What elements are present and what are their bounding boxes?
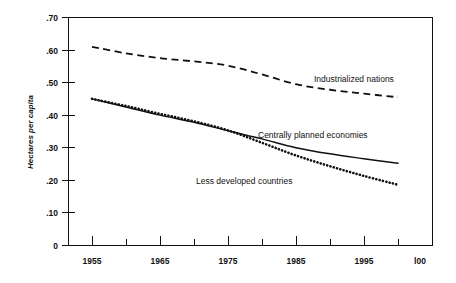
y-axis-labels: .70 .60 .50 .40 .30 .20 .10 0 (46, 13, 58, 251)
y-tick-label-060: .60 (46, 46, 58, 56)
x-tick-label-1955: 1955 (83, 256, 102, 266)
x-tick-label-1975: 1975 (219, 256, 238, 266)
x-tick-label-2000: l00 (414, 256, 426, 266)
series-paths (92, 47, 398, 185)
y-axis-title: Hectares per capita (26, 95, 35, 169)
y-tick-label-050: .50 (46, 78, 58, 88)
plot-frame (69, 18, 433, 246)
x-axis-ticks (92, 236, 398, 246)
line-chart: .70 .60 .50 .40 .30 .20 .10 0 Hectares p… (0, 0, 456, 283)
x-tick-label-1985: 1985 (287, 256, 306, 266)
y-tick-label-040: .40 (46, 111, 58, 121)
series-line-less-developed-countries (92, 99, 398, 185)
x-axis-labels: 1955 1965 1975 1985 1995 l00 (83, 256, 427, 266)
series-label-centrally-planned-economies: Centrally planned economies (258, 130, 368, 140)
series-label-industrialized-nations: Industrialized nations (314, 74, 394, 84)
y-tick-label-020: .20 (46, 176, 58, 186)
x-tick-label-1995: 1995 (355, 256, 374, 266)
x-tick-label-1965: 1965 (151, 256, 170, 266)
y-tick-label-010: .10 (46, 208, 58, 218)
series-line-industrialized-nations (92, 47, 398, 97)
y-tick-label-030: .30 (46, 143, 58, 153)
y-tick-label-000: 0 (53, 241, 58, 251)
series-label-less-developed-countries: Less developed countries (196, 176, 292, 186)
y-tick-label-070: .70 (46, 13, 58, 23)
chart-container: .70 .60 .50 .40 .30 .20 .10 0 Hectares p… (0, 0, 456, 283)
